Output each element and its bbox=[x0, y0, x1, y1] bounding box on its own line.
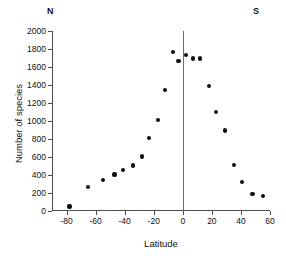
x-tick-label: -60 bbox=[89, 217, 101, 226]
data-point bbox=[121, 168, 125, 172]
y-tick-label: 0 bbox=[41, 207, 46, 216]
data-point bbox=[112, 172, 116, 176]
x-tick-mark bbox=[241, 211, 242, 215]
y-tick-label: 600 bbox=[32, 153, 46, 162]
y-tick-label: 400 bbox=[32, 171, 46, 180]
data-point bbox=[250, 192, 254, 196]
y-tick-label: 2000 bbox=[27, 27, 46, 36]
data-point bbox=[198, 56, 202, 60]
data-point bbox=[156, 118, 160, 122]
x-tick-label: 40 bbox=[236, 217, 245, 226]
data-point bbox=[207, 84, 211, 88]
x-tick-mark bbox=[67, 211, 68, 215]
y-tick-mark bbox=[48, 85, 52, 86]
data-point bbox=[101, 178, 105, 182]
data-point bbox=[163, 88, 167, 92]
data-point bbox=[232, 163, 236, 167]
y-tick-mark bbox=[48, 121, 52, 122]
data-point bbox=[147, 136, 151, 140]
y-axis-line bbox=[52, 31, 53, 211]
x-axis-line bbox=[52, 210, 270, 211]
data-point bbox=[140, 154, 144, 158]
y-tick-mark bbox=[48, 103, 52, 104]
data-point bbox=[240, 180, 244, 184]
north-hemisphere-label: N bbox=[47, 6, 54, 16]
y-tick-mark bbox=[48, 31, 52, 32]
equator-reference-line bbox=[183, 31, 184, 211]
y-tick-label: 1200 bbox=[27, 99, 46, 108]
y-tick-label: 1600 bbox=[27, 63, 46, 72]
y-axis-title: Number of species bbox=[13, 54, 24, 194]
y-tick-label: 1000 bbox=[27, 117, 46, 126]
y-tick-label: 200 bbox=[32, 189, 46, 198]
x-tick-label: 20 bbox=[207, 217, 216, 226]
x-tick-label: 0 bbox=[180, 217, 185, 226]
y-tick-mark bbox=[48, 211, 52, 212]
data-point bbox=[131, 163, 135, 167]
data-point bbox=[223, 128, 227, 132]
data-point bbox=[191, 56, 195, 60]
data-point bbox=[171, 50, 175, 54]
y-tick-mark bbox=[48, 193, 52, 194]
y-tick-mark bbox=[48, 49, 52, 50]
data-point bbox=[67, 204, 71, 208]
data-point bbox=[86, 185, 90, 189]
south-hemisphere-label: S bbox=[253, 6, 259, 16]
plot-area: 0200400600800100012001400160018002000 -8… bbox=[52, 31, 270, 211]
data-point bbox=[184, 53, 188, 57]
x-tick-mark bbox=[270, 211, 271, 215]
x-tick-label: 60 bbox=[265, 217, 274, 226]
x-tick-mark bbox=[183, 211, 184, 215]
y-tick-label: 800 bbox=[32, 135, 46, 144]
x-tick-label: -80 bbox=[60, 217, 72, 226]
scatter-chart-figure: N S Number of species Latitude 020040060… bbox=[0, 0, 286, 260]
x-tick-label: -40 bbox=[119, 217, 131, 226]
x-tick-mark bbox=[125, 211, 126, 215]
y-tick-mark bbox=[48, 175, 52, 176]
y-tick-label: 1400 bbox=[27, 81, 46, 90]
x-tick-label: -20 bbox=[148, 217, 160, 226]
x-tick-mark bbox=[212, 211, 213, 215]
y-tick-mark bbox=[48, 157, 52, 158]
data-point bbox=[261, 194, 265, 198]
data-point bbox=[214, 110, 218, 114]
x-axis-title: Latitude bbox=[52, 238, 270, 249]
y-tick-label: 1800 bbox=[27, 45, 46, 54]
x-tick-mark bbox=[96, 211, 97, 215]
x-tick-mark bbox=[154, 211, 155, 215]
data-point bbox=[176, 59, 180, 63]
y-tick-mark bbox=[48, 139, 52, 140]
y-tick-mark bbox=[48, 67, 52, 68]
